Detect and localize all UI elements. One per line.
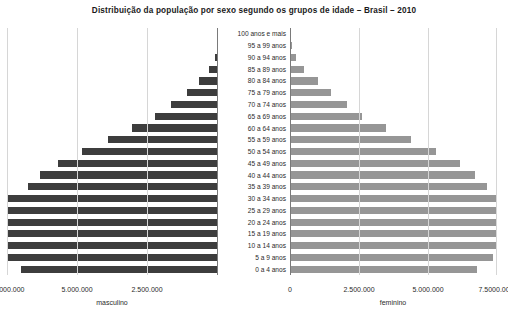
bar-row-male xyxy=(7,63,218,75)
bar-male xyxy=(199,77,218,84)
age-group-label: 15 a 19 anos xyxy=(218,228,290,240)
xtick-male: 7.5000.000 xyxy=(0,286,25,293)
xtick-female: 2.500.000 xyxy=(343,286,374,293)
age-group-label: 100 anos e mais xyxy=(218,28,290,40)
bar-male xyxy=(7,230,218,237)
age-group-label: 70 a 74 anos xyxy=(218,99,290,111)
age-group-label: 55 a 59 anos xyxy=(218,134,290,146)
bar-row-male xyxy=(7,122,218,134)
bar-row-male xyxy=(7,228,218,240)
axis-caption-male: masculino xyxy=(96,299,128,306)
bar-row-female xyxy=(290,52,497,64)
axis-female-zero xyxy=(290,28,291,275)
bar-row-female xyxy=(290,204,497,216)
bar-male xyxy=(7,254,218,261)
bar-male xyxy=(132,124,218,131)
age-group-label: 60 a 64 anos xyxy=(218,122,290,134)
bar-row-female xyxy=(290,169,497,181)
bar-female xyxy=(290,266,477,273)
bar-row-male xyxy=(7,52,218,64)
bar-male xyxy=(82,148,218,155)
bar-female xyxy=(290,89,331,96)
age-group-label: 35 a 39 anos xyxy=(218,181,290,193)
xtick-female: 0 xyxy=(288,286,292,293)
gridline-male-5000000 xyxy=(77,28,78,275)
bar-row-male xyxy=(7,193,218,205)
bar-row-male xyxy=(7,28,218,40)
age-group-label: 25 a 29 anos xyxy=(218,204,290,216)
bar-row-female xyxy=(290,263,497,275)
bar-row-male xyxy=(7,216,218,228)
bar-female xyxy=(290,171,475,178)
bar-row-female xyxy=(290,228,497,240)
bar-female xyxy=(290,136,411,143)
age-group-label: 0 a 4 anos xyxy=(218,263,290,275)
chart-title: Distribuição da população por sexo segun… xyxy=(0,6,508,15)
age-group-label: 90 a 94 anos xyxy=(218,52,290,64)
age-group-label: 65 a 69 anos xyxy=(218,110,290,122)
female-plot-panel xyxy=(290,28,497,275)
xtick-male: 2.500.000 xyxy=(131,286,162,293)
bar-row-female xyxy=(290,87,497,99)
xtick-male: 5.000.000 xyxy=(61,286,92,293)
bar-female xyxy=(290,195,497,202)
bar-female xyxy=(290,113,362,120)
bar-male xyxy=(7,195,218,202)
bar-row-female xyxy=(290,110,497,122)
male-bar-rows xyxy=(7,28,218,275)
bar-male xyxy=(58,160,218,167)
bar-row-female xyxy=(290,216,497,228)
bar-row-female xyxy=(290,252,497,264)
bar-female xyxy=(290,254,493,261)
gridline-male-7500000 xyxy=(7,28,8,275)
bar-row-male xyxy=(7,146,218,158)
bar-male xyxy=(108,136,218,143)
bar-female xyxy=(290,207,497,214)
xtick-female: 7.5000.000 xyxy=(478,286,508,293)
bar-female xyxy=(290,66,304,73)
bar-row-male xyxy=(7,99,218,111)
bar-female xyxy=(290,77,318,84)
bar-male xyxy=(171,101,218,108)
bar-female xyxy=(290,160,460,167)
bar-row-male xyxy=(7,240,218,252)
bar-row-female xyxy=(290,134,497,146)
gridline-male-2500000 xyxy=(147,28,148,275)
age-group-label: 85 a 89 anos xyxy=(218,63,290,75)
bar-row-female xyxy=(290,122,497,134)
bar-row-female xyxy=(290,193,497,205)
bar-female xyxy=(290,101,347,108)
bar-row-male xyxy=(7,134,218,146)
age-group-label: 5 a 9 anos xyxy=(218,252,290,264)
age-group-label-column: 100 anos e mais95 a 99 anos90 a 94 anos8… xyxy=(218,28,290,275)
bar-male xyxy=(187,89,218,96)
bar-row-male xyxy=(7,252,218,264)
bar-male xyxy=(7,219,218,226)
age-group-label: 45 a 49 anos xyxy=(218,157,290,169)
male-plot-panel xyxy=(7,28,218,275)
age-group-label: 80 a 84 anos xyxy=(218,75,290,87)
bar-row-female xyxy=(290,63,497,75)
bar-row-female xyxy=(290,181,497,193)
gridline-female-2500000 xyxy=(359,28,360,275)
gridline-female-5000000 xyxy=(428,28,429,275)
bar-row-female xyxy=(290,146,497,158)
bar-female xyxy=(290,124,386,131)
bar-female xyxy=(290,183,487,190)
age-group-label: 50 a 54 anos xyxy=(218,146,290,158)
axis-caption-female: feminino xyxy=(380,299,406,306)
bar-row-female xyxy=(290,40,497,52)
bar-male xyxy=(21,266,218,273)
bar-female xyxy=(290,148,436,155)
bar-male xyxy=(40,171,218,178)
bar-row-male xyxy=(7,40,218,52)
bar-male xyxy=(28,183,218,190)
bar-row-male xyxy=(7,75,218,87)
age-group-label: 20 a 24 anos xyxy=(218,216,290,228)
bar-male xyxy=(7,242,218,249)
bar-row-male xyxy=(7,181,218,193)
bar-row-male xyxy=(7,263,218,275)
female-bar-rows xyxy=(290,28,497,275)
age-group-label: 95 a 99 anos xyxy=(218,40,290,52)
bar-row-female xyxy=(290,157,497,169)
